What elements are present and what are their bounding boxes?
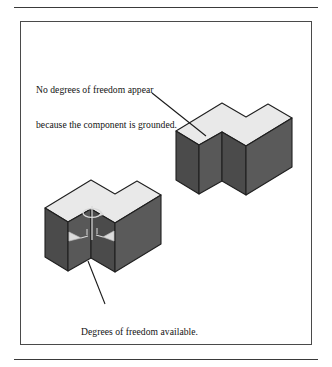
- dof-note-caption: Degrees of freedom available.: [81, 303, 198, 361]
- dof-note-line-1: Degrees of freedom available.: [81, 326, 198, 338]
- grounded-note-line-1: No degrees of freedom appear: [36, 84, 177, 96]
- figure-page: No degrees of freedom appear because the…: [0, 0, 332, 367]
- grounded-note-caption: No degrees of freedom appear because the…: [36, 61, 177, 154]
- grounded-note-line-2: because the component is grounded.: [36, 119, 177, 131]
- top-horizontal-rule: [14, 7, 318, 8]
